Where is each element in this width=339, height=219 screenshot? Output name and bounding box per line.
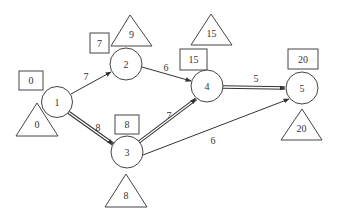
earliest-time-value: 0 xyxy=(29,75,34,86)
earliest-time-value: 7 xyxy=(97,38,102,49)
event-node-4: 15154 xyxy=(180,14,232,102)
event-node-3: 883 xyxy=(105,115,147,207)
event-node-5: 20205 xyxy=(281,49,322,140)
latest-time-value: 9 xyxy=(129,29,134,40)
event-node-1: 001 xyxy=(16,71,73,136)
edges-layer: 786756 xyxy=(68,62,289,155)
network-diagram-canvas: 786756 0017928831515420205 xyxy=(0,0,339,219)
earliest-time-value: 15 xyxy=(189,54,199,65)
earliest-time-value: 8 xyxy=(125,119,130,130)
arrowhead-icon xyxy=(68,112,113,144)
event-number-label: 5 xyxy=(300,83,305,94)
event-node-2: 792 xyxy=(90,15,152,80)
edge-duration-label: 7 xyxy=(84,71,89,82)
activity-arrow xyxy=(71,72,111,94)
latest-time-value: 15 xyxy=(207,28,217,39)
event-number-label: 2 xyxy=(124,59,129,70)
activity-arrow xyxy=(143,99,289,155)
event-number-label: 1 xyxy=(55,97,60,108)
edge-3-4-critical: 7 xyxy=(139,99,196,142)
edge-duration-label: 5 xyxy=(254,73,259,84)
latest-time-value: 20 xyxy=(297,123,307,134)
network-diagram: 786756 0017928831515420205 xyxy=(0,0,339,219)
edge-duration-label: 7 xyxy=(167,110,172,121)
latest-time-value: 0 xyxy=(35,119,40,130)
edge-1-3-critical: 8 xyxy=(68,112,113,144)
earliest-time-value: 20 xyxy=(298,54,308,65)
edge-duration-label: 8 xyxy=(96,122,101,133)
event-number-label: 3 xyxy=(125,147,130,158)
latest-time-value: 8 xyxy=(124,190,129,201)
edge-duration-label: 6 xyxy=(164,62,169,73)
edge-duration-label: 6 xyxy=(211,135,216,146)
edge-3-5: 6 xyxy=(143,99,289,155)
edge-4-5-critical: 5 xyxy=(223,73,285,88)
event-number-label: 4 xyxy=(205,81,210,92)
edge-1-2: 7 xyxy=(71,71,111,94)
